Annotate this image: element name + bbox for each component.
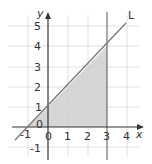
x-tick-2: 2	[84, 130, 91, 143]
y-tick-minus1: -1	[30, 142, 41, 155]
x-tick-0: 0	[45, 130, 52, 143]
y-tick-4: 4	[34, 40, 41, 53]
x-tick-1: 1	[64, 130, 71, 143]
line-label: L	[128, 9, 135, 22]
y-axis-arrow-icon	[45, 12, 51, 19]
y-tick-3: 3	[34, 61, 41, 74]
y-tick-5: 5	[34, 20, 41, 33]
origin-label: 0	[36, 118, 43, 131]
graph: y x L 5 4 3 2 1 0 -1 -1 0 1 2 3 4	[0, 0, 152, 164]
shaded-region	[48, 46, 107, 127]
x-tick-4: 4	[123, 130, 130, 143]
x-axis-label: x	[135, 128, 143, 141]
x-tick-minus1: -1	[20, 128, 31, 141]
x-tick-3: 3	[103, 130, 110, 143]
y-tick-2: 2	[34, 81, 41, 94]
y-tick-1: 1	[35, 101, 42, 114]
y-axis-label: y	[36, 7, 44, 20]
